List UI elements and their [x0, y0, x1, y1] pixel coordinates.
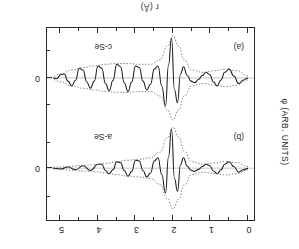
plot-frame: (a)c-Se(b)a-Se	[46, 27, 255, 221]
exafs-figure: r (Å) φ (ARB. UNITS) (a)c-Se(b)a-Se 0123…	[0, 0, 299, 249]
x-tick-label-4: 4	[96, 225, 101, 235]
panel-tag-a: (a)	[234, 42, 244, 52]
curve-layer	[47, 28, 254, 220]
figure-rotation-wrapper: r (Å) φ (ARB. UNITS) (a)c-Se(b)a-Se 0123…	[0, 0, 299, 249]
x-tick-top-1	[210, 215, 211, 220]
x-tick-top-0	[247, 215, 248, 220]
y-tick-minor	[47, 50, 50, 51]
curve-a-se-envelope-1	[53, 169, 248, 209]
y-tick-minor	[47, 104, 50, 105]
x-tick-label-2: 2	[171, 225, 176, 235]
sample-label-a-se: a-Se	[94, 132, 112, 142]
x-tick-major-0	[247, 28, 248, 33]
x-tick-major-2	[172, 28, 173, 33]
x-tick-major-3	[135, 28, 136, 33]
y-tick-zero-panel-0	[47, 77, 52, 78]
x-tick-minor	[191, 217, 192, 220]
x-tick-major-1	[210, 28, 211, 33]
x-tick-minor	[228, 217, 229, 220]
x-tick-minor	[116, 28, 117, 31]
y-tick-minor	[47, 142, 50, 143]
panel-tag-b: (b)	[234, 132, 244, 142]
y-axis-title: φ (ARB. UNITS)	[280, 72, 290, 192]
x-tick-label-3: 3	[134, 225, 139, 235]
x-tick-label-1: 1	[209, 225, 214, 235]
x-tick-top-5	[60, 215, 61, 220]
x-tick-minor	[78, 28, 79, 31]
x-tick-top-2	[172, 215, 173, 220]
x-tick-minor	[228, 28, 229, 31]
x-tick-minor	[116, 217, 117, 220]
x-tick-minor	[78, 217, 79, 220]
x-tick-minor	[153, 217, 154, 220]
y-tick-label-zero-0: 0	[35, 74, 40, 84]
x-tick-top-3	[135, 215, 136, 220]
x-tick-major-4	[97, 28, 98, 33]
curve-c-se-envelope-1	[53, 80, 248, 120]
curve-c-se-signal	[53, 38, 248, 106]
curve-a-se-envelope-2	[53, 127, 248, 167]
x-tick-minor	[153, 28, 154, 31]
x-tick-label-5: 5	[59, 225, 64, 235]
x-tick-major-5	[60, 28, 61, 33]
curve-a-se-signal	[53, 129, 248, 193]
y-tick-zero-panel-1	[47, 167, 52, 168]
x-tick-top-4	[97, 215, 98, 220]
y-tick-label-zero-1: 0	[35, 164, 40, 174]
x-tick-minor	[191, 28, 192, 31]
y-tick-minor	[47, 196, 50, 197]
sample-label-c-se: c-Se	[95, 42, 112, 52]
x-axis-title: r (Å)	[0, 2, 299, 12]
x-tick-label-0: 0	[246, 225, 251, 235]
